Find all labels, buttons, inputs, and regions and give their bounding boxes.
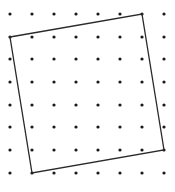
grid-dot — [162, 125, 165, 128]
grid-dot — [140, 125, 143, 128]
grid-dot — [74, 171, 77, 174]
grid-dot — [30, 12, 33, 15]
grid-dot — [118, 35, 121, 38]
grid-dot — [8, 148, 11, 151]
grid-dot — [74, 103, 77, 106]
grid-dot — [140, 35, 143, 38]
dot-grid-diagram — [0, 0, 175, 192]
grid-dot — [118, 148, 121, 151]
grid-dot — [118, 125, 121, 128]
diagram-svg — [0, 0, 175, 192]
grid-dot — [52, 80, 55, 83]
grid-dot — [8, 57, 11, 60]
grid-dot — [52, 125, 55, 128]
grid-dot — [118, 80, 121, 83]
grid-dot — [8, 80, 11, 83]
grid-dot — [118, 171, 121, 174]
grid-dot — [162, 57, 165, 60]
grid-dot — [96, 103, 99, 106]
grid-dot — [30, 148, 33, 151]
grid-dot — [52, 57, 55, 60]
grid-dot — [30, 35, 33, 38]
grid-dot — [140, 57, 143, 60]
grid-dot — [140, 103, 143, 106]
grid-dot — [74, 125, 77, 128]
grid-dot — [52, 35, 55, 38]
grid-dot — [162, 103, 165, 106]
grid-dot — [52, 171, 55, 174]
dot-grid — [8, 12, 165, 174]
grid-dot — [52, 148, 55, 151]
grid-dot — [74, 57, 77, 60]
grid-dot — [140, 171, 143, 174]
grid-dot — [30, 80, 33, 83]
grid-dot — [30, 125, 33, 128]
grid-dot — [96, 35, 99, 38]
grid-dot — [96, 57, 99, 60]
grid-dot — [8, 171, 11, 174]
grid-dot — [8, 12, 11, 15]
grid-dot — [8, 103, 11, 106]
grid-dot — [140, 148, 143, 151]
grid-dot — [96, 148, 99, 151]
grid-dot — [74, 35, 77, 38]
grid-dot — [162, 12, 165, 15]
grid-dot — [52, 12, 55, 15]
grid-dot — [140, 80, 143, 83]
grid-dot — [162, 35, 165, 38]
grid-dot — [74, 12, 77, 15]
grid-dot — [96, 125, 99, 128]
grid-dot — [162, 80, 165, 83]
grid-dot — [30, 103, 33, 106]
grid-dot — [162, 171, 165, 174]
grid-dot — [96, 12, 99, 15]
grid-dot — [118, 103, 121, 106]
grid-dot — [118, 12, 121, 15]
grid-dot — [74, 80, 77, 83]
grid-dot — [52, 103, 55, 106]
grid-dot — [74, 148, 77, 151]
grid-dot — [96, 80, 99, 83]
grid-dot — [96, 171, 99, 174]
grid-dot — [30, 57, 33, 60]
grid-dot — [118, 57, 121, 60]
grid-dot — [8, 125, 11, 128]
